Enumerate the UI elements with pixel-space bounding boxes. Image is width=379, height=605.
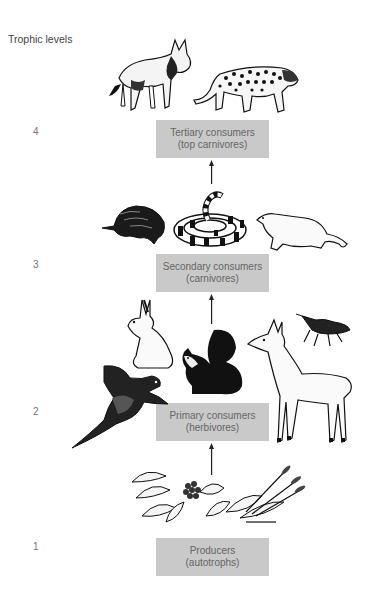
level-title: Primary consumers (169, 410, 255, 422)
arrow-up-icon (209, 160, 214, 184)
arrow-up-icon (209, 294, 214, 324)
level-number-1: 1 (33, 541, 39, 552)
level-subtitle: (herbivores) (186, 422, 239, 434)
level-title: Secondary consumers (163, 261, 263, 273)
banded-snake-icon (170, 190, 250, 250)
level-number-4: 4 (33, 126, 39, 137)
rabbit-icon (122, 298, 178, 370)
grasshopper-icon (294, 312, 352, 352)
level-title: Producers (190, 545, 236, 557)
level-box-producers: Producers (autotrophs) (156, 538, 269, 576)
level-subtitle: (autotrophs) (186, 557, 240, 569)
pheasant-icon (68, 362, 174, 450)
jaguar-icon (190, 52, 302, 118)
level-box-tertiary: Tertiary consumers (top carnivores) (156, 120, 269, 158)
plants-icon (126, 462, 306, 534)
level-title: Tertiary consumers (170, 127, 254, 139)
mole-icon (100, 198, 170, 248)
level-subtitle: (top carnivores) (178, 139, 247, 151)
weasel-icon (255, 208, 350, 258)
level-box-secondary: Secondary consumers (carnivores) (156, 254, 269, 292)
diagram-heading: Trophic levels (8, 33, 72, 45)
level-number-2: 2 (33, 406, 39, 417)
squirrel-icon (178, 328, 248, 398)
wolf-icon (105, 36, 195, 116)
level-subtitle: (carnivores) (186, 273, 239, 285)
level-number-3: 3 (33, 259, 39, 270)
